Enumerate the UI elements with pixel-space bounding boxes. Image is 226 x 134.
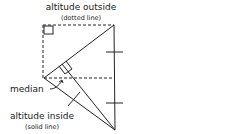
side-ac	[114, 25, 115, 130]
label-altitude-outside: altitude outside	[46, 2, 117, 12]
label-median: median	[10, 84, 44, 94]
right-angle-marker-inside	[59, 61, 72, 74]
right-angle-marker-outside	[44, 26, 53, 34]
median-leader	[50, 81, 62, 89]
label-altitude-outside-note: (dotted line)	[61, 14, 101, 22]
label-altitude-inside-note: (solid line)	[25, 123, 59, 131]
label-altitude-inside: altitude inside	[10, 111, 74, 121]
side-ab	[44, 25, 114, 78]
triangle-diagram: altitude outside (dotted line) median al…	[0, 0, 226, 134]
altitude-inside-leader	[68, 92, 80, 106]
